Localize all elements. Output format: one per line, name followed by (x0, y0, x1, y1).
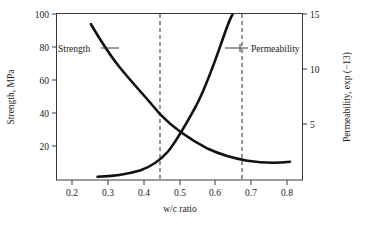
x-tick-label-0.4: 0.4 (138, 188, 150, 198)
y2-tick-label-5: 5 (310, 120, 315, 130)
x-tick-label-0.5: 0.5 (174, 188, 186, 198)
x-tick-label-0.2: 0.2 (66, 188, 78, 198)
y2-tick-label-10: 10 (310, 65, 320, 75)
permeability-curve (98, 15, 233, 177)
y-tick-label-40: 40 (40, 109, 50, 119)
x-tick-label-0.8: 0.8 (281, 188, 293, 198)
y-right-axis-title: Permeability, exp (−13) (342, 52, 353, 142)
permeability-series-label: Permeability (251, 44, 300, 54)
x-tick-label-0.3: 0.3 (102, 188, 114, 198)
y-left-axis-title: Strength, MPa (6, 69, 16, 125)
plot-frame (57, 14, 303, 181)
y-right-axis-tick-labels: 15 10 5 (310, 10, 320, 130)
y-left-axis-tick-labels: 100 80 60 40 20 (35, 10, 50, 152)
y-tick-label-80: 80 (40, 43, 50, 53)
y-right-axis-ticks (303, 14, 308, 124)
x-axis-title: w/c ratio (163, 204, 197, 214)
strength-series-label: Strength (58, 44, 90, 54)
x-axis-tick-labels: 0.2 0.3 0.4 0.5 0.6 0.7 0.8 (66, 188, 293, 198)
strength-permeability-chart: 100 80 60 40 20 15 10 5 0.2 (0, 0, 369, 225)
x-axis-ticks (72, 180, 287, 185)
y-tick-label-100: 100 (35, 10, 50, 20)
y-left-axis-ticks (52, 14, 57, 146)
y-tick-label-20: 20 (40, 142, 50, 152)
y-tick-label-60: 60 (40, 76, 50, 86)
x-tick-label-0.6: 0.6 (209, 188, 221, 198)
y2-tick-label-15: 15 (310, 10, 320, 20)
x-tick-label-0.7: 0.7 (245, 188, 257, 198)
plot-area-border (57, 14, 303, 181)
chart-figure: 100 80 60 40 20 15 10 5 0.2 (0, 0, 369, 225)
